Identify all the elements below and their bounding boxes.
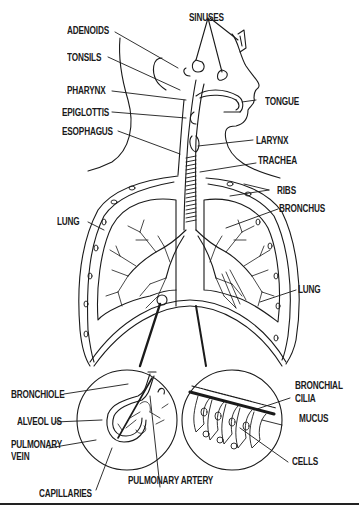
left-lung [98, 199, 176, 320]
bottom-divider [0, 503, 359, 505]
label-pulmonary-vein-1: PULMONARY [11, 439, 62, 450]
detail-marker-left [157, 295, 167, 305]
diaphragm [90, 300, 286, 362]
label-sinuses: SINUSES [189, 12, 224, 23]
label-cilia: CILIA [295, 393, 316, 404]
label-capillaries: CAPILLARIES [39, 488, 92, 499]
ear-icon [154, 58, 166, 90]
label-pulmonary-vein-2: VEIN [11, 451, 29, 462]
sinus-1 [192, 60, 204, 72]
label-lung-left: LUNG [57, 216, 80, 227]
label-alveolus: ALVEOL US [17, 416, 62, 427]
label-adenoids: ADENOIDS [67, 25, 109, 36]
trachea-left-wall [184, 80, 196, 230]
respiratory-diagram: ADENOIDS TONSILS PHARYNX EPIGLOTTIS ESOP… [0, 0, 359, 516]
label-esophagus: ESOPHAGUS [62, 126, 113, 137]
label-larynx: LARYNX [256, 135, 288, 146]
label-epiglottis: EPIGLOTTIS [62, 107, 109, 118]
label-bronchial: BRONCHIAL [295, 380, 343, 391]
ribcage-left-outer [79, 176, 178, 366]
label-mucus: MUCUS [299, 413, 328, 424]
bronchial-lining-inset [182, 370, 282, 470]
label-bronchiole: BRONCHIOLE [11, 389, 64, 400]
left-bronchus [128, 230, 186, 276]
trachea-right-wall [196, 84, 204, 230]
label-cells: CELLS [292, 456, 318, 467]
label-pulmonary-artery: PULMONARY ARTERY [128, 475, 213, 486]
label-ribs: RIBS [277, 185, 296, 196]
label-bronchus: BRONCHUS [279, 203, 325, 214]
larynx-shape [190, 136, 199, 152]
label-tongue: TONGUE [265, 96, 299, 107]
label-lung-right: LUNG [298, 284, 321, 295]
label-pharynx: PHARYNX [67, 85, 106, 96]
label-trachea: TRACHEA [258, 155, 297, 166]
label-tonsils: TONSILS [67, 52, 101, 63]
